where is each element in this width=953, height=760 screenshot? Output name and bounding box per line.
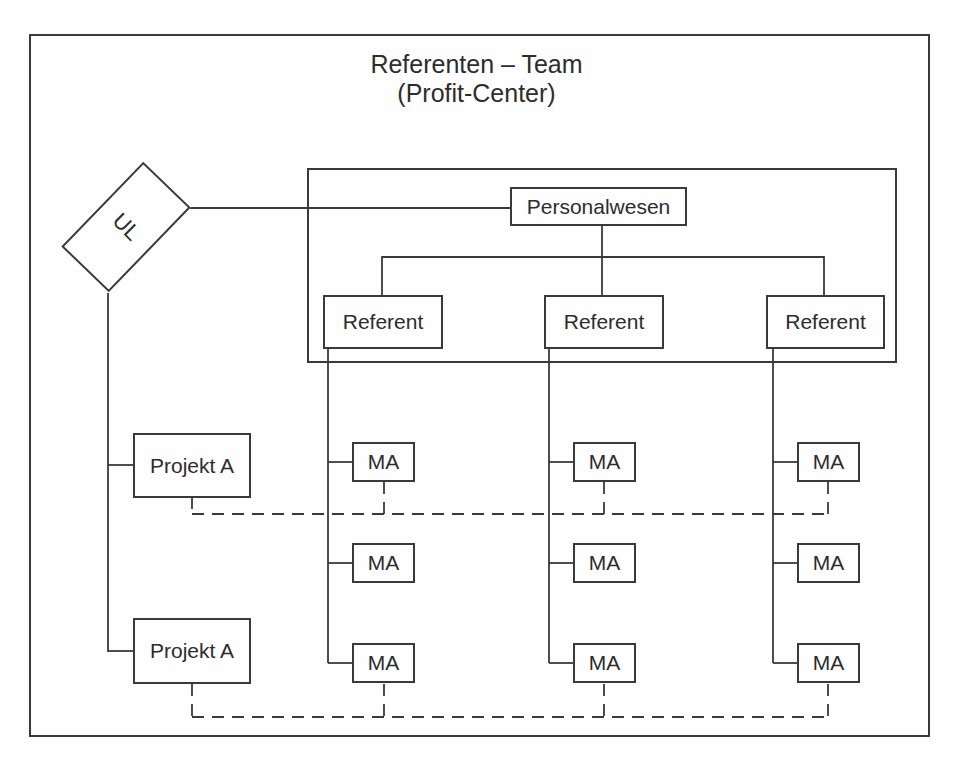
ma-box-col3-row1: MA [797,442,860,482]
ma-box-col2-row3: MA [573,643,636,683]
personalwesen-label: Personalwesen [527,195,671,219]
referent-box-3: Referent [766,295,885,349]
dashed-connectors [192,482,828,717]
ul-node-label: UL [107,208,145,246]
ma-box-col1-row3: MA [352,643,415,683]
referent-box-1: Referent [323,295,443,349]
ma-label: MA [368,651,400,675]
ma-label: MA [368,450,400,474]
diagram-page: Referenten – Team (Profit-Center) [0,0,953,760]
ma-label: MA [813,450,845,474]
ma-label: MA [589,651,621,675]
referent-box-2: Referent [544,295,664,349]
projekt-box-2: Projekt A [133,618,251,684]
referent-label-1: Referent [343,310,424,334]
projekt-label-1: Projekt A [150,454,234,478]
ma-label: MA [589,551,621,575]
ma-box-col1-row2: MA [352,543,415,583]
ma-label: MA [589,450,621,474]
ma-label: MA [813,651,845,675]
referent-label-3: Referent [785,310,866,334]
ma-box-col2-row2: MA [573,543,636,583]
ma-box-col2-row1: MA [573,442,636,482]
referent-label-2: Referent [564,310,645,334]
personalwesen-box: Personalwesen [510,187,687,226]
projekt-label-2: Projekt A [150,639,234,663]
ma-label: MA [368,551,400,575]
projekt-box-1: Projekt A [133,433,251,498]
ma-box-col3-row2: MA [797,543,860,583]
ma-label: MA [813,551,845,575]
ma-box-col1-row1: MA [352,442,415,482]
ma-box-col3-row3: MA [797,643,860,683]
